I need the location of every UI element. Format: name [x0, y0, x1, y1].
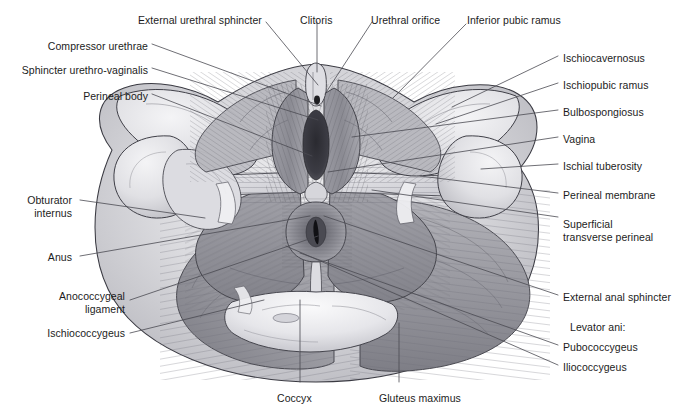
label-perineal-body: Perineal body: [0, 90, 148, 103]
label-pubococcygeus: Pubococcygeus: [563, 341, 638, 354]
label-ischiopubic-ramus: Ischiopubic ramus: [563, 79, 648, 92]
label-coccyx: Coccyx: [277, 392, 312, 405]
label-vagina: Vagina: [563, 133, 595, 146]
label-external-urethral-sphincter: External urethral sphincter: [138, 14, 262, 27]
anatomy-figure: External urethral sphincter Clitoris Ure…: [0, 0, 677, 417]
label-external-anal-sphincter: External anal sphincter: [563, 291, 671, 304]
label-anus: Anus: [0, 251, 72, 264]
label-ischiocavernosus: Ischiocavernosus: [563, 52, 645, 65]
label-anococcygeal-ligament: Anococcygeal ligament: [0, 290, 125, 316]
label-ischial-tuberosity: Ischial tuberosity: [563, 160, 642, 173]
label-inferior-pubic-ramus: Inferior pubic ramus: [467, 14, 561, 27]
urethral-orifice: [314, 96, 320, 105]
label-urethral-orifice: Urethral orifice: [371, 14, 440, 27]
label-obturator-internus: Obturator internus: [0, 194, 72, 220]
label-perineal-membrane: Perineal membrane: [563, 189, 655, 202]
label-sphincter-urethro-vaginalis: Sphincter urethro-vaginalis: [0, 64, 148, 77]
label-clitoris: Clitoris: [300, 14, 332, 27]
vaginal-orifice: [303, 110, 329, 180]
label-iliococcygeus: Iliococcygeus: [563, 361, 627, 374]
label-bulbospongiosus: Bulbospongiosus: [563, 106, 644, 119]
label-gluteus-maximus: Gluteus maximus: [379, 392, 461, 405]
label-superficial-transverse-perineal: Superficial transverse perineal: [563, 218, 653, 244]
illustration-body: [95, 63, 550, 382]
label-levator-ani: Levator ani:: [570, 321, 625, 334]
label-ischiococcygeus: Ischiococcygeus: [0, 327, 125, 340]
label-compressor-urethrae: Compressor urethrae: [0, 40, 148, 53]
